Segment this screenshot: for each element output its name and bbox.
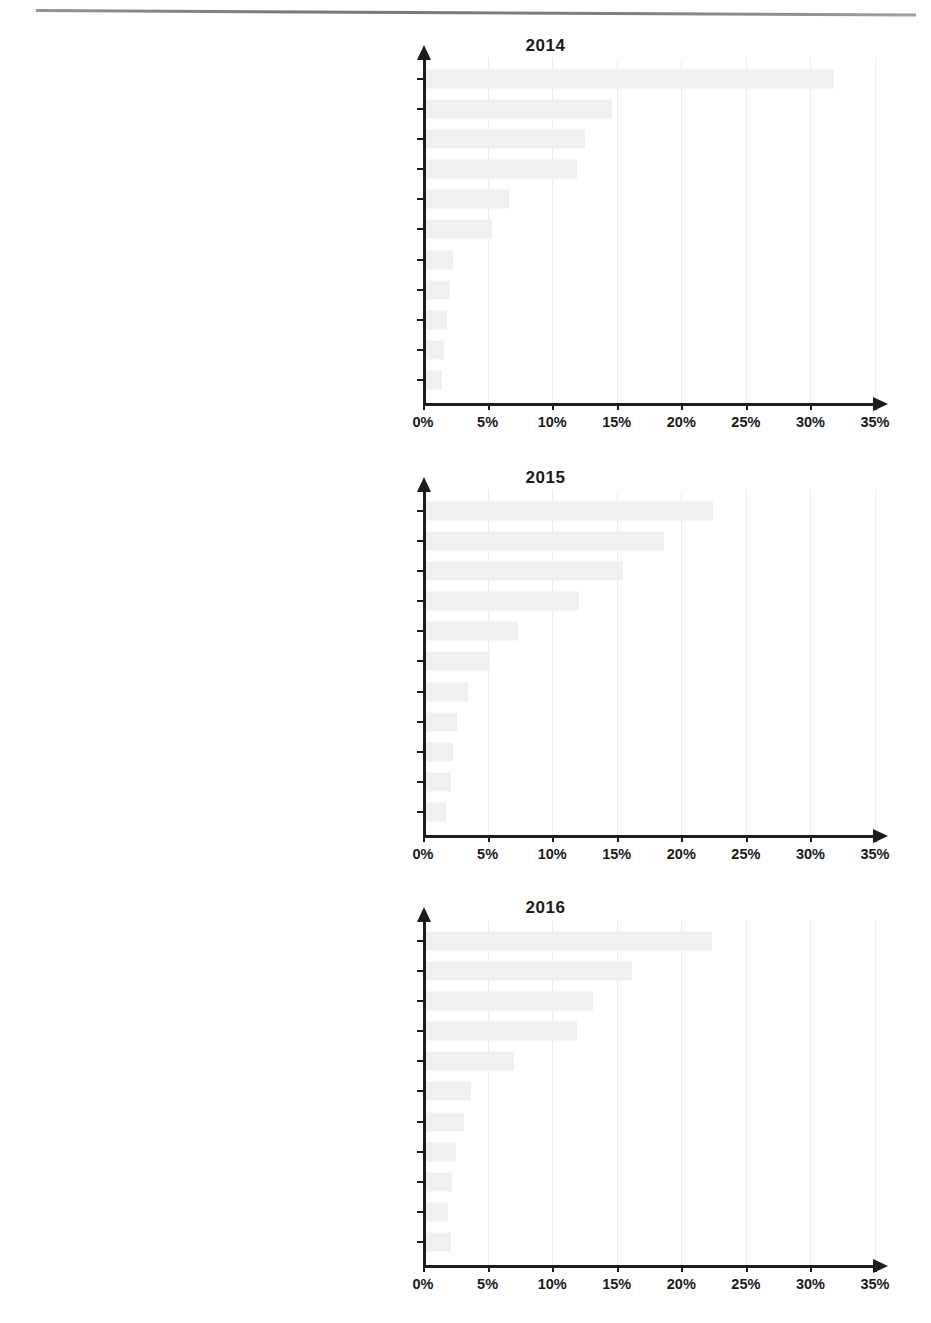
y-axis-arrow-icon <box>417 45 431 60</box>
chart-row: Clothing, knitted or crocheted (61) <box>0 556 423 586</box>
x-axis-tick <box>810 403 812 410</box>
x-axis-tick-label: 30% <box>780 414 840 430</box>
x-axis-tick-label: 25% <box>716 414 776 430</box>
x-axis-tick-label: 35% <box>845 414 905 430</box>
chart-row: Electrical machinery and equipment (85) <box>0 154 423 184</box>
bar <box>425 100 612 119</box>
chart-row: Watches (91) <box>0 616 423 646</box>
x-axis-tick <box>810 1265 812 1272</box>
x-axis-tick-label: 25% <box>716 1276 776 1292</box>
y-axis-arrow-icon <box>417 477 431 492</box>
bar <box>425 1232 451 1251</box>
bar <box>425 190 509 209</box>
gridline <box>810 920 811 1265</box>
chart-row: Footwear (64) <box>0 496 423 526</box>
x-axis-tick <box>746 835 748 842</box>
chart-row: Toys (95) <box>0 1137 423 1167</box>
chart-2014: 2014 Footwear (64)Clothing, knitted or c… <box>0 28 931 448</box>
bar <box>425 532 664 551</box>
x-axis-tick <box>746 403 748 410</box>
bar <box>425 220 492 239</box>
chart-row: Headgear (65) <box>0 767 423 797</box>
x-axis-line <box>423 835 875 838</box>
x-axis-tick-label: 5% <box>458 414 518 430</box>
x-axis-line <box>423 403 875 406</box>
chart-2016: 2016 Footwear (64)Clothing, knitted or c… <box>0 890 931 1310</box>
bar <box>425 682 468 701</box>
gridline <box>681 920 682 1265</box>
x-axis-tick <box>746 1265 748 1272</box>
bar <box>425 932 712 951</box>
chart-row: Clothing, knitted or crocheted (61) <box>0 94 423 124</box>
bar <box>425 1052 514 1071</box>
x-axis-tick-label: 10% <box>522 846 582 862</box>
bar <box>425 712 457 731</box>
chart-row: Articles of leather(42) <box>0 526 423 556</box>
x-axis-tick-label: 30% <box>780 846 840 862</box>
x-axis-tick <box>488 403 490 410</box>
bar <box>425 1082 471 1101</box>
plot-area-2015: Footwear (64)Articles of leather(42)Clot… <box>0 460 931 880</box>
gridline <box>746 58 747 403</box>
bar <box>425 562 623 581</box>
chart-row: Electrical machinery and equipment (85) <box>0 586 423 616</box>
x-axis-tick <box>875 835 877 842</box>
x-axis-tick-label: 5% <box>458 846 518 862</box>
gridline <box>681 490 682 835</box>
bar <box>425 1112 464 1131</box>
bar <box>425 592 579 611</box>
x-axis-tick <box>875 1265 877 1272</box>
x-axis-tick-label: 0% <box>393 846 453 862</box>
x-axis-tick <box>617 403 619 410</box>
bar <box>425 1142 456 1161</box>
x-axis-tick <box>552 1265 554 1272</box>
chart-row: Pharmaceutical products (30) <box>0 365 423 395</box>
gridline <box>746 920 747 1265</box>
bar <box>425 70 834 89</box>
gridline <box>810 58 811 403</box>
x-axis-tick-label: 10% <box>522 1276 582 1292</box>
bar <box>425 1202 448 1221</box>
gridline <box>875 920 876 1265</box>
chart-row: Optical, photographic and medical instru… <box>0 184 423 214</box>
x-axis-tick <box>875 403 877 410</box>
x-axis-tick <box>617 835 619 842</box>
chart-row: Electrical machinery and equipment (85) <box>0 1016 423 1046</box>
chart-row: Clothing, knitted or crocheted (61) <box>0 956 423 986</box>
bar <box>425 250 453 269</box>
chart-row: Perfumery and cosmetics (33) <box>0 677 423 707</box>
bar <box>425 772 451 791</box>
gridline <box>810 490 811 835</box>
x-axis-tick <box>552 835 554 842</box>
bar <box>425 1172 452 1191</box>
x-axis-tick <box>423 403 425 410</box>
chart-row: Optical, photographic and medical instru… <box>0 646 423 676</box>
bar <box>425 160 577 179</box>
x-axis-tick <box>681 403 683 410</box>
x-axis-tick-label: 10% <box>522 414 582 430</box>
x-axis-tick <box>423 835 425 842</box>
chart-row: Pharmaceutical products (30) <box>0 1197 423 1227</box>
x-axis-tick <box>617 1265 619 1272</box>
chart-row: Pharmaceutical products (30) <box>0 737 423 767</box>
chart-2015: 2015 Footwear (64)Articles of leather(42… <box>0 460 931 880</box>
chart-row: Articles of leather(42) <box>0 986 423 1016</box>
gridline <box>746 490 747 835</box>
x-axis-tick-label: 20% <box>651 414 711 430</box>
y-axis-line <box>423 920 426 1265</box>
bar <box>425 280 450 299</box>
x-axis-tick-label: 20% <box>651 846 711 862</box>
bar <box>425 742 453 761</box>
x-axis-tick-label: 20% <box>651 1276 711 1292</box>
bar <box>425 802 446 821</box>
chart-row: Machinery and mechanical appliances (84) <box>0 335 423 365</box>
chart-row: Watches (91) <box>0 214 423 244</box>
x-axis-line <box>423 1265 875 1268</box>
x-axis-tick-label: 15% <box>587 846 647 862</box>
x-axis-tick <box>810 835 812 842</box>
y-axis-line <box>423 58 426 403</box>
bar <box>425 962 632 981</box>
gridline <box>681 58 682 403</box>
chart-row: Jewellery (71) <box>0 1167 423 1197</box>
bar <box>425 130 585 149</box>
